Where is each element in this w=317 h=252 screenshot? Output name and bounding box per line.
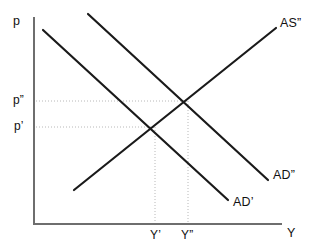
guide-lines <box>36 101 188 223</box>
price-tick-label-p-double-prime: p” <box>13 94 24 106</box>
curve-as-double-prime <box>74 28 276 190</box>
diagram-canvas <box>0 0 317 252</box>
as-ad-diagram: p Y p” p’ Y’ Y” AD’ AD” AS” <box>0 0 317 252</box>
x-axis-label: Y <box>287 227 296 240</box>
output-tick-label-y-double-prime: Y” <box>181 229 193 241</box>
curve-label-as-double-prime: AS” <box>280 17 301 30</box>
output-tick-label-y-prime: Y’ <box>150 229 161 241</box>
curves <box>43 14 276 200</box>
y-axis-label: p <box>13 15 20 28</box>
price-tick-label-p-prime: p’ <box>14 120 24 132</box>
curve-label-ad-prime: AD’ <box>233 196 254 209</box>
curve-label-ad-double-prime: AD” <box>273 169 295 182</box>
curve-ad-prime <box>43 30 228 200</box>
axes <box>34 18 281 224</box>
